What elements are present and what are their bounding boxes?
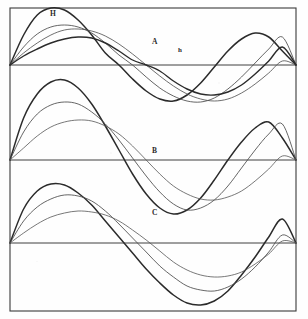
amplitude-label-H: H xyxy=(50,10,56,18)
B-curve-2-mid xyxy=(10,102,296,210)
amplitude-label-h: h xyxy=(178,47,182,54)
wave-curves-group xyxy=(10,8,296,305)
panel-label-c: C xyxy=(152,209,158,217)
panel-label-b: B xyxy=(152,147,157,155)
A-curve-1-major-H xyxy=(10,8,296,102)
panel-label-a: A xyxy=(152,38,158,46)
figure-canvas: H h A B C xyxy=(0,0,308,319)
C-curve-3-slow xyxy=(10,211,296,277)
wave-curves-plot xyxy=(0,0,308,319)
